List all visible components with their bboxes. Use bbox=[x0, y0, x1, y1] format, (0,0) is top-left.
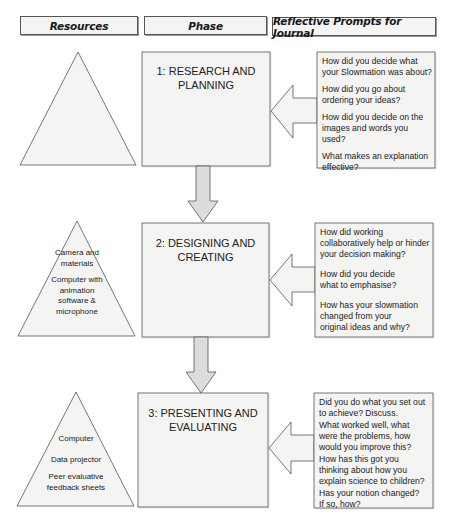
header-prompts-label: Reflective Prompts for Journal bbox=[273, 15, 435, 39]
resources-list-3: Computer Data projector Peer evaluative … bbox=[40, 434, 112, 499]
header-resources: Resources bbox=[20, 16, 138, 35]
phase-title-3: 3: PRESENTING AND EVALUATING bbox=[138, 406, 268, 434]
prompt-item: How has this got you thinking about how … bbox=[319, 454, 430, 487]
prompt-item: How did you decide what to emphasise? bbox=[320, 269, 430, 291]
phase-title-2-line2: CREATING bbox=[142, 250, 269, 264]
prompt-item: What makes an explanation effective? bbox=[322, 151, 432, 173]
resource-triangle-1 bbox=[20, 52, 136, 165]
phase-title-3-line1: 3: PRESENTING AND bbox=[138, 406, 268, 420]
header-resources-label: Resources bbox=[50, 20, 109, 32]
prompts-list-2: How did working collaboratively help or … bbox=[315, 223, 433, 339]
prompt-item: Did you do what you set out to achieve? … bbox=[319, 397, 430, 419]
prompts-list-1: How did you decide what your Slowmation … bbox=[317, 52, 435, 179]
prompt-item: Has your notion changed? If so, how? bbox=[319, 488, 430, 510]
prompt-item: How has your slowmation changed from you… bbox=[320, 300, 430, 333]
phase-title-3-line2: EVALUATING bbox=[138, 420, 268, 434]
prompt-item: How did working collaboratively help or … bbox=[320, 227, 430, 260]
prompt-item: How did you decide what your Slowmation … bbox=[322, 56, 432, 78]
phase-title-1-line1: 1: RESEARCH AND bbox=[142, 64, 270, 78]
phase-title-1: 1: RESEARCH AND PLANNING bbox=[142, 64, 270, 92]
prompts-list-3: Did you do what you set out to achieve? … bbox=[314, 393, 433, 511]
header-phase-label: Phase bbox=[188, 20, 223, 32]
left-arrow-3-icon bbox=[269, 422, 314, 474]
resource-item: Computer with animation software & micro… bbox=[45, 275, 109, 317]
prompt-item: What worked well, what were the problems… bbox=[319, 420, 430, 453]
resources-list-2: Camera and materials Computer with anima… bbox=[45, 248, 109, 323]
resource-item: Peer evaluative feedback sheets bbox=[40, 472, 112, 493]
resource-item: Computer bbox=[40, 434, 112, 445]
resource-item: Data projector bbox=[40, 455, 112, 466]
phase-title-2-line1: 2: DESIGNING AND bbox=[142, 236, 269, 250]
phase-title-2: 2: DESIGNING AND CREATING bbox=[142, 236, 269, 264]
left-arrow-2-icon bbox=[270, 254, 315, 306]
phase-title-1-line2: PLANNING bbox=[142, 78, 270, 92]
down-arrow-1-icon bbox=[188, 166, 218, 222]
header-prompts: Reflective Prompts for Journal bbox=[272, 17, 436, 36]
down-arrow-2-icon bbox=[186, 337, 216, 393]
resource-item: Camera and materials bbox=[45, 248, 109, 269]
prompt-item: How did you decide on the images and wor… bbox=[322, 112, 432, 145]
header-phase: Phase bbox=[144, 16, 267, 35]
left-arrow-1-icon bbox=[271, 85, 317, 138]
prompt-item: How did you go about ordering your ideas… bbox=[322, 84, 432, 106]
